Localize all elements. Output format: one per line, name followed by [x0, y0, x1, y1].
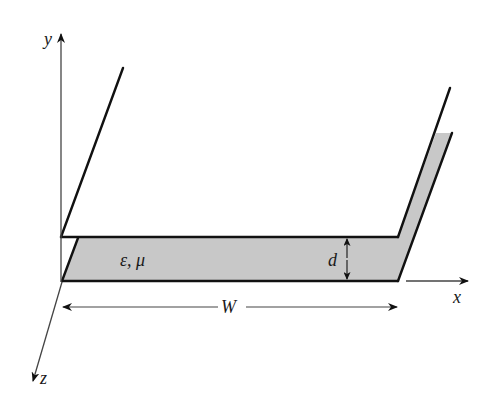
z-axis-label: z [39, 368, 47, 388]
width-label: W [221, 297, 238, 317]
upper-plate [61, 68, 450, 237]
y-axis-label: y [42, 29, 52, 49]
axes [33, 34, 468, 381]
material-label: ε, μ [120, 250, 145, 270]
z-axis [33, 282, 62, 381]
x-axis-label: x [452, 287, 461, 307]
parallel-plate-waveguide-diagram: y x z ε, μ W d [0, 0, 492, 404]
separation-label: d [328, 250, 338, 270]
